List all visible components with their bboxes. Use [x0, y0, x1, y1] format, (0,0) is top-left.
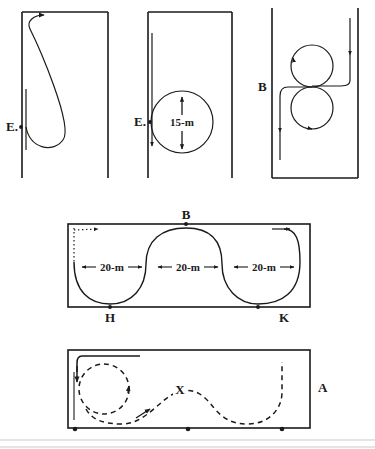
- panel3-entry-connector: [312, 55, 350, 86]
- panel4-dim2-label: 20-m: [176, 261, 200, 273]
- panel5-label-X: X: [175, 382, 185, 397]
- panel3-upper-circle: [291, 45, 333, 87]
- panel4-point-b-dot: [184, 222, 188, 226]
- panel4-label-H: H: [105, 310, 115, 325]
- panel-top-middle: 15-m E.: [134, 12, 232, 178]
- panel2-point-e-dot: [148, 120, 152, 124]
- panel-bottom: X A: [68, 350, 328, 431]
- panel2-label-E: E.: [134, 114, 146, 129]
- panel5-marker-dot-left: [73, 427, 78, 432]
- panel5-circle-path: [79, 364, 129, 414]
- panel3-exit-connector: [280, 87, 312, 104]
- panel3-lower-circle: [291, 87, 333, 129]
- panel4-point-k-dot: [256, 305, 260, 309]
- diagram-canvas: E. 15-m E. B: [0, 0, 375, 449]
- panel3-label-B: B: [258, 79, 267, 94]
- panel4-guide-horizontal: [74, 229, 98, 230]
- panel-top-left: E.: [6, 12, 108, 178]
- panel5-marker-dot-right: [280, 427, 285, 432]
- panel3-upper-circle-arrow: [293, 58, 294, 62]
- panel5-marker-dot-center: [186, 427, 191, 432]
- panel4-label-K: K: [279, 310, 290, 325]
- panel4-point-h-dot: [108, 305, 112, 309]
- panel1-teardrop-path: [26, 15, 65, 148]
- panel5-label-A: A: [318, 380, 328, 395]
- panel-top-right: B: [258, 8, 358, 178]
- panel5-course-rect: [68, 350, 310, 428]
- panel2-label-diameter: 15-m: [170, 116, 194, 128]
- panel4-dim3-label: 20-m: [252, 261, 276, 273]
- panel4-label-B: B: [182, 207, 191, 222]
- panel1-label-E: E.: [6, 119, 18, 134]
- panel4-dim1-label: 20-m: [100, 261, 124, 273]
- panel1-point-e-dot: [19, 125, 23, 129]
- panel4-dimension-row-1: 20-m: [82, 261, 142, 273]
- panel-middle: 20-m 20-m 20-m B H K: [68, 207, 310, 325]
- panel4-dimension-row-2: 20-m: [158, 261, 218, 273]
- figure-root: E. 15-m E. B: [0, 0, 375, 449]
- panel5-circle-arrow: [128, 386, 129, 393]
- panel4-dimension-row-3: 20-m: [234, 261, 294, 273]
